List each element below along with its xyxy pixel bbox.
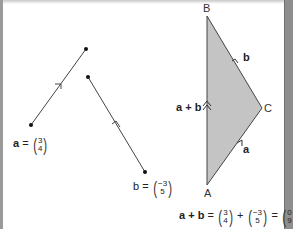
v1-y: 4: [223, 217, 227, 225]
edge-a-label: a: [243, 144, 249, 155]
column-vector-a: ( 34 ): [217, 207, 234, 226]
column-vector-b: ( −35 ): [247, 207, 269, 226]
vector-a-arrow: [29, 47, 88, 127]
equation-lhs: a + b: [179, 209, 204, 221]
left-paren: (: [282, 207, 286, 226]
vector-a-name: a: [13, 137, 19, 149]
right-paren: ): [263, 207, 267, 226]
sum-equation: a + b = ( 34 ) + ( −35 ) = ( 09 ): [179, 207, 293, 226]
plus-sign: +: [237, 209, 243, 221]
column-vector-result: ( 09 ): [281, 207, 293, 226]
point-b-label: B: [203, 3, 210, 14]
left-paren: (: [33, 135, 37, 154]
edge-b-label: b: [243, 52, 250, 63]
vector-b-arrow: [86, 75, 147, 174]
point-c-label: C: [264, 103, 272, 114]
equals-sign: =: [271, 209, 277, 221]
v2-y: 5: [253, 217, 262, 225]
left-paren: (: [218, 207, 222, 226]
column-vector-b: ( −35 ): [152, 178, 174, 197]
column-vector-a: ( 34 ): [32, 135, 49, 154]
edge-sum-label: a + b: [176, 102, 201, 113]
result-y: 9: [287, 217, 291, 225]
equals-sign: =: [22, 137, 28, 149]
right-paren: ): [229, 207, 233, 226]
equals-sign: =: [142, 180, 148, 192]
vector-a-definition: a = ( 34 ): [13, 135, 49, 154]
left-paren: (: [248, 207, 252, 226]
vector-b-name: b: [133, 180, 139, 192]
right-paren: ): [168, 178, 172, 197]
vector-a-y: 4: [38, 145, 42, 153]
left-paren: (: [153, 178, 157, 197]
triangle-abc: [203, 16, 262, 185]
point-a-label: A: [204, 188, 211, 199]
right-paren: ): [44, 135, 48, 154]
equals-sign: =: [207, 209, 213, 221]
vector-b-y: 5: [158, 188, 167, 196]
vector-b-definition: b = ( −35 ): [133, 178, 173, 197]
